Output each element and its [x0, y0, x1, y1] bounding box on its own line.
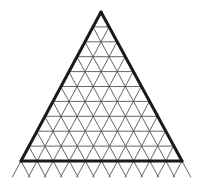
zigzag-line [21, 161, 30, 177]
zigzag-line [118, 161, 127, 177]
zigzag-line [173, 161, 182, 177]
zigzag-line [109, 161, 118, 177]
grid-diagonal-line [69, 57, 125, 161]
zigzag-line [53, 161, 62, 177]
zigzag-line [85, 161, 94, 177]
triangle-grid-figure [0, 0, 206, 186]
zigzag-line [37, 161, 46, 177]
zigzag-line [69, 161, 78, 177]
triangular-grid-diagram [0, 0, 206, 186]
bottom-zigzag [12, 161, 190, 177]
zigzag-line [93, 161, 102, 177]
grid-lines [29, 27, 174, 161]
zigzag-line [182, 161, 191, 177]
zigzag-line [12, 161, 21, 177]
zigzag-line [28, 161, 37, 177]
grid-diagonal-line [93, 27, 166, 161]
zigzag-line [61, 161, 70, 177]
zigzag-line [77, 161, 86, 177]
zigzag-line [134, 161, 143, 177]
zigzag-line [157, 161, 166, 177]
grid-diagonal-line [166, 146, 174, 161]
zigzag-line [125, 161, 134, 177]
grid-diagonal-line [61, 87, 102, 162]
grid-diagonal-line [77, 57, 134, 161]
grid-diagonal-line [29, 146, 38, 161]
zigzag-line [45, 161, 54, 177]
zigzag-line [150, 161, 159, 177]
zigzag-line [102, 161, 111, 177]
zigzag-line [141, 161, 150, 177]
grid-diagonal-line [37, 27, 109, 161]
grid-diagonal-line [102, 87, 142, 162]
zigzag-line [166, 161, 175, 177]
